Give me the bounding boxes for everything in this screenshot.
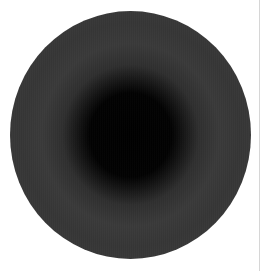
cropped-caption bbox=[60, 0, 200, 2]
image-canvas bbox=[0, 0, 262, 271]
vertical-divider bbox=[259, 0, 260, 271]
radial-disc bbox=[10, 11, 251, 259]
